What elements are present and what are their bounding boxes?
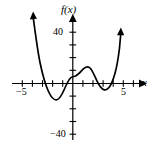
graph-canvas — [0, 0, 153, 148]
polynomial-graph-figure: f(x) x 40 −40 −5 5 — [0, 0, 153, 148]
y-axis-arrow-icon — [69, 14, 77, 22]
curve-left-arrow-icon — [30, 12, 37, 20]
y-tick-label-40: 40 — [53, 27, 63, 37]
y-tick-label-neg40: −40 — [50, 129, 66, 139]
x-tick-label-5: 5 — [121, 87, 126, 97]
function-label: f(x) — [61, 4, 76, 15]
x-tick-label-neg5: −5 — [16, 87, 27, 97]
x-axis-label: x — [142, 77, 147, 88]
curve-right-arrow-icon — [117, 27, 124, 35]
function-curve — [33, 17, 121, 100]
x-axis — [12, 80, 147, 88]
function-curve-group — [30, 12, 124, 100]
